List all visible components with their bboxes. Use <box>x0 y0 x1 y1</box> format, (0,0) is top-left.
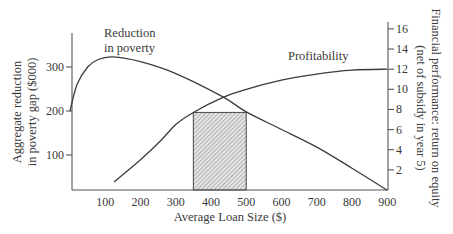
y-tick-label: 100 <box>46 148 64 162</box>
hatched-region <box>193 112 246 190</box>
x-tick-label: 300 <box>167 195 185 209</box>
profitability-curve-label: Profitability <box>288 49 349 63</box>
right-y-axis-title-line2: (net of subsidy in year 5) <box>414 45 428 170</box>
poverty-curve-label-line2: in poverty <box>104 41 156 55</box>
left-y-axis-ticks: 100200300 <box>46 60 72 162</box>
y2-tick-label: 10 <box>396 82 408 96</box>
x-tick-label: 600 <box>273 195 291 209</box>
x-tick-label: 400 <box>202 195 220 209</box>
left-y-axis-title-line2: in poverty gap ($000) <box>25 58 39 167</box>
x-axis-title: Average Loan Size ($) <box>174 210 287 224</box>
y2-tick-label: 12 <box>396 62 408 76</box>
y-tick-label: 300 <box>46 60 64 74</box>
poverty-profitability-chart: 100200300400500600700800900 100200300 24… <box>0 0 453 234</box>
x-tick-label: 100 <box>96 195 114 209</box>
poverty-curve-label-line1: Reduction <box>104 26 156 40</box>
y2-tick-label: 14 <box>396 42 408 56</box>
x-tick-label: 900 <box>378 195 396 209</box>
x-tick-label: 700 <box>308 195 326 209</box>
y2-tick-label: 16 <box>396 22 408 36</box>
y2-tick-label: 6 <box>396 123 402 137</box>
right-y-axis-title: Financial performance: return on equity … <box>414 8 443 208</box>
hatched-rectangle <box>193 112 246 190</box>
right-y-axis-title-line1: Financial performance: return on equity <box>429 8 443 208</box>
x-tick-label: 800 <box>343 195 361 209</box>
x-axis-ticks: 100200300400500600700800900 <box>96 195 396 209</box>
left-y-axis-title: Aggregate reduction in poverty gap ($000… <box>10 58 39 167</box>
chart-container: 100200300400500600700800900 100200300 24… <box>0 0 453 234</box>
left-y-axis-title-line1: Aggregate reduction <box>10 60 24 163</box>
y2-tick-label: 4 <box>396 143 402 157</box>
x-tick-label: 200 <box>132 195 150 209</box>
right-y-axis-ticks: 246810121416 <box>388 22 408 177</box>
x-tick-label: 500 <box>237 195 255 209</box>
y-tick-label: 200 <box>46 104 64 118</box>
y2-tick-label: 8 <box>396 102 402 116</box>
y2-tick-label: 2 <box>396 163 402 177</box>
